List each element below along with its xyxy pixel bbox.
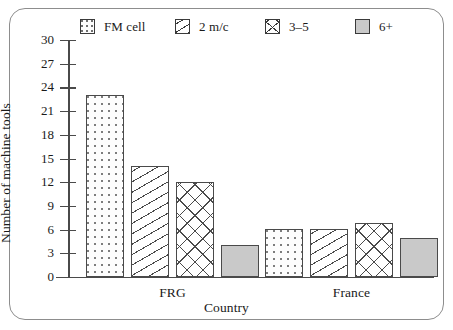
y-tick: 3 [60, 253, 76, 254]
bar-frg-3-5[interactable] [176, 182, 214, 277]
y-tick: 24 [60, 87, 76, 88]
y-tick-label: 30 [28, 31, 54, 48]
bar-frg-fm-cell[interactable] [86, 95, 124, 277]
y-axis-title: Number of machine tools [0, 0, 14, 78]
y-tick: 27 [60, 64, 76, 65]
y-tick: 30 [60, 40, 76, 41]
bar-france-3-5[interactable] [355, 223, 393, 278]
legend-label: 2 m/c [199, 19, 229, 34]
y-tick-label: 9 [28, 197, 54, 214]
y-tick: 6 [60, 230, 76, 231]
y-tick: 0 [60, 277, 76, 278]
y-tick-label: 18 [28, 126, 54, 143]
bar-france-fm-cell[interactable] [265, 229, 303, 277]
bar-france-2-mc[interactable] [310, 229, 348, 277]
x-group-label-france: France [302, 285, 402, 301]
y-tick: 9 [60, 206, 76, 207]
x-axis-line [56, 277, 434, 278]
y-tick: 21 [60, 111, 76, 112]
y-tick-label: 3 [28, 244, 54, 261]
solid-gray-swatch-icon [355, 19, 370, 34]
y-tick-label: 15 [28, 150, 54, 167]
y-tick-label: 24 [28, 78, 54, 95]
y-tick-label: 0 [28, 268, 54, 285]
legend-label: 3–5 [289, 19, 309, 34]
y-tick-label: 12 [28, 173, 54, 190]
bar-frg-6-plus[interactable] [221, 245, 259, 277]
legend-item-fm-cell[interactable]: FM cell [80, 19, 175, 34]
plot-area: 302724211815129630 [68, 40, 434, 277]
chart-legend: FM cell 2 m/c 3–5 6+ [80, 15, 430, 37]
diagonal-swatch-icon [175, 19, 190, 34]
y-tick: 15 [60, 159, 76, 160]
legend-label: FM cell [104, 19, 146, 34]
legend-item-3-5[interactable]: 3–5 [265, 19, 355, 34]
legend-item-2-mc[interactable]: 2 m/c [175, 19, 265, 34]
y-tick: 12 [60, 182, 76, 183]
legend-label: 6+ [379, 19, 393, 34]
y-tick-label: 6 [28, 221, 54, 238]
chart-figure: FM cell 2 m/c 3–5 6+ Number of machine t… [0, 0, 453, 330]
cross-hatch-swatch-icon [265, 19, 280, 34]
x-group-label-frg: FRG [123, 285, 223, 301]
x-axis-title: Country [0, 300, 453, 316]
dotted-swatch-icon [80, 19, 95, 34]
bar-france-6-plus[interactable] [400, 238, 438, 277]
y-tick: 18 [60, 135, 76, 136]
bar-frg-2-mc[interactable] [131, 166, 169, 277]
legend-item-6-plus[interactable]: 6+ [355, 19, 425, 34]
y-tick-label: 21 [28, 102, 54, 119]
y-tick-label: 27 [28, 55, 54, 72]
